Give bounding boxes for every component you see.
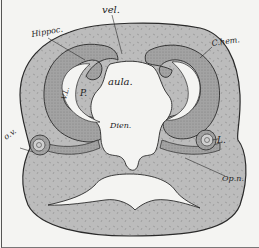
label-velum: vel. bbox=[102, 4, 120, 15]
label-aula: aula. bbox=[108, 76, 133, 87]
label-pallium: P. bbox=[79, 88, 87, 98]
label-optic-nerve: Op.n. bbox=[222, 174, 244, 183]
label-diencephalon: Dien. bbox=[109, 121, 131, 130]
label-lens: L. bbox=[216, 135, 226, 145]
label-optic-vesicle: o.v. bbox=[2, 127, 18, 142]
brain-section-diagram: vel. Hippoc. C.hem. V.L. P. aula. Dien. … bbox=[0, 0, 259, 248]
